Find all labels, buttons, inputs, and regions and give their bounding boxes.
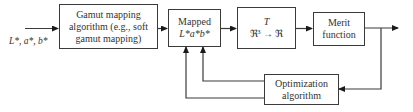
optimization-line-1: Optimization bbox=[275, 78, 328, 90]
gamut-mapping-box: Gamut mapping algorithm (e.g., soft gamu… bbox=[59, 4, 158, 49]
merit-line-2: function bbox=[322, 29, 355, 41]
input-label: L*, a*, b* bbox=[9, 36, 48, 46]
gamut-mapping-line-2: algorithm (e.g., soft bbox=[69, 21, 148, 33]
merit-line-1: Merit bbox=[328, 17, 350, 29]
mapped-line-1: Mapped bbox=[178, 16, 211, 28]
transform-box: T ℜ³ → ℜ bbox=[237, 7, 296, 49]
transform-mapping: ℜ³ → ℜ bbox=[250, 28, 284, 40]
gamut-mapping-line-1: Gamut mapping bbox=[76, 9, 141, 21]
mapped-line-2: L*a*b* bbox=[179, 28, 210, 40]
mapped-lab-box: Mapped L*a*b* bbox=[168, 9, 221, 47]
merit-function-box: Merit function bbox=[313, 12, 365, 46]
arrow-optimization-to-mapped-1 bbox=[203, 47, 264, 81]
transform-symbol: T bbox=[264, 16, 270, 28]
arrow-optimization-to-mapped-2 bbox=[186, 47, 264, 98]
gamut-mapping-line-3: gamut mapping) bbox=[76, 33, 142, 45]
optimization-line-2: algorithm bbox=[282, 90, 321, 102]
optimization-algorithm-box: Optimization algorithm bbox=[264, 74, 339, 105]
